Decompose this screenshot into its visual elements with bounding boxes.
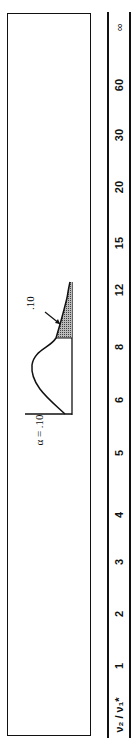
alpha-label: α = .10 [33, 414, 45, 445]
f-distribution-curve-icon: .10 [20, 270, 80, 420]
column-header: 15 [113, 237, 125, 249]
column-header: ∞ [113, 23, 125, 31]
column-header: 30 [113, 129, 125, 141]
column-header: 6 [113, 397, 125, 403]
column-header: 3 [113, 559, 125, 565]
column-header: 4 [113, 512, 125, 518]
column-header: 12 [113, 284, 125, 296]
tail-probability-label: .10 [24, 296, 36, 310]
column-header: 8 [113, 344, 125, 350]
column-header: 60 [113, 79, 125, 91]
column-header: 2 [113, 611, 125, 617]
column-header: 1 [113, 663, 125, 669]
column-header: 20 [113, 181, 125, 193]
table-rule-top [107, 12, 109, 738]
table-rule-bottom [129, 12, 131, 738]
column-header: 5 [113, 450, 125, 456]
column-header-label: ν₂ / ν₁* [113, 697, 125, 732]
